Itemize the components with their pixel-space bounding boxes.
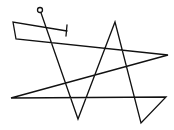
trajectory-path <box>11 10 168 123</box>
trajectory-diagram <box>0 0 174 130</box>
end-tick-marker <box>66 25 67 36</box>
start-marker-icon <box>38 8 43 13</box>
